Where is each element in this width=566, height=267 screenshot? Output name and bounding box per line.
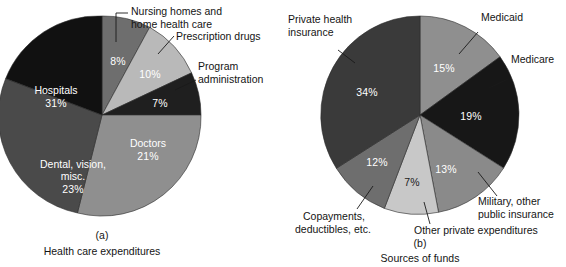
slice-label-hospitals-name: Hospitals — [34, 84, 77, 96]
slice-label-dental-value: 23% — [62, 183, 84, 195]
callout-private-health-line1: Private health — [288, 13, 352, 26]
slice-label-medicare-value: 19% — [460, 110, 482, 122]
panel-label-a: (a) — [0, 229, 204, 242]
panel-label-b: (b) — [318, 237, 522, 250]
pie-chart-b: 15% 19% 13% 7% 12% 34% — [321, 16, 519, 224]
slice-label-hospitals-value: 31% — [45, 97, 67, 109]
callout-medicare: Medicare — [511, 53, 554, 66]
caption-a: Health care expenditures — [0, 245, 204, 258]
slice-label-dental-line1: Dental, vision, — [40, 158, 106, 170]
callout-program-admin-line2: administration — [198, 73, 263, 86]
callout-copayments-line2: deductibles, etc. — [295, 223, 371, 236]
slice-label-private-health-value: 34% — [356, 86, 378, 98]
callout-other-private: Other private expenditures — [414, 224, 538, 237]
callout-program-admin-line1: Program — [198, 60, 238, 73]
figure-two-pie-charts: 8% 10% 7% Doctors 21% Dental, vision, mi… — [0, 0, 566, 267]
callout-private-health-line2: insurance — [288, 26, 334, 39]
slice-label-dental-line2: misc. — [61, 170, 86, 182]
callout-copayments-line1: Copayments, — [303, 210, 365, 223]
callout-medicaid: Medicaid — [481, 11, 523, 24]
slice-label-other-private-value: 7% — [404, 176, 420, 188]
callout-military-line2: public insurance — [478, 208, 554, 221]
slice-label-prescription-value: 10% — [139, 68, 161, 80]
slice-label-doctors-value: 21% — [137, 150, 159, 162]
callout-prescription-drugs: Prescription drugs — [176, 30, 261, 43]
slice-label-program-value: 7% — [152, 97, 168, 109]
slice-label-nursing-value: 8% — [110, 55, 126, 67]
slice-label-medicaid-value: 15% — [433, 62, 455, 74]
slice-label-copayments-value: 12% — [366, 156, 388, 168]
pie-chart-a: 8% 10% 7% Doctors 21% Dental, vision, mi… — [0, 13, 201, 216]
slice-label-doctors-name: Doctors — [130, 137, 166, 149]
callout-military-line1: Military, other — [478, 195, 540, 208]
caption-b: Sources of funds — [318, 252, 522, 265]
slice-label-military-value: 13% — [435, 163, 457, 175]
callout-nursing-homes-line1: Nursing homes and — [131, 5, 222, 18]
callout-nursing-homes-line2: home health care — [131, 18, 212, 31]
